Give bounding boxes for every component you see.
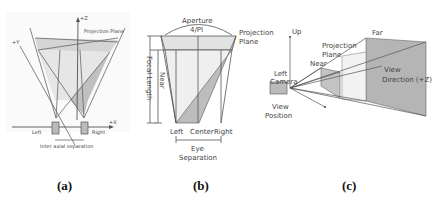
near-label: Near: [310, 60, 327, 68]
projection-plane: [342, 52, 366, 101]
eye-label: Eye: [191, 145, 204, 153]
view-direction-label-2: Direction (+Z): [382, 76, 432, 84]
stereo-diagram-canvas: +Z +Y +X Projection Plane Left Right Int…: [0, 0, 447, 201]
plane-label: Plane: [239, 38, 258, 46]
view-label: View: [272, 103, 289, 111]
left-camera-icon: [52, 122, 59, 134]
caption-b: (b): [193, 178, 209, 194]
panel-b: Aperture 4/PI Projection Plane Near Foca…: [145, 17, 274, 162]
view-direction-label-1: View: [384, 66, 401, 74]
projection-label: Projection: [322, 42, 357, 50]
projection-plane-label: Projection Plane: [84, 28, 124, 35]
aperture-label: Aperture: [182, 17, 213, 25]
right-camera-icon: [81, 122, 88, 134]
z-axis-label: +Z: [80, 15, 88, 21]
aperture-value: 4/PI: [190, 26, 203, 34]
camera-label: Camera: [270, 78, 297, 86]
caption-c: (c): [342, 178, 356, 194]
center-label: Center: [190, 128, 214, 136]
inter-axial-separation-label: Inter axial separation: [40, 143, 93, 150]
left-label: Left: [274, 70, 287, 78]
focal-length-label: Focal Length: [145, 56, 153, 101]
up-label: Up: [292, 28, 302, 36]
left-label: Left: [32, 129, 41, 135]
caption-a: (a): [57, 178, 72, 194]
separation-label: Separation: [179, 154, 217, 162]
far-label: Far: [372, 29, 383, 37]
plane-label: Plane: [322, 51, 341, 59]
near-label: Near: [158, 72, 166, 89]
x-axis-label: +X: [109, 119, 117, 125]
projection-label: Projection: [239, 29, 274, 37]
y-axis-label: +Y: [12, 39, 20, 45]
position-label: Position: [265, 112, 292, 120]
right-label: Right: [214, 128, 233, 136]
left-label: Left: [170, 128, 183, 136]
right-label: Right: [92, 129, 105, 136]
panel-a: +Z +Y +X Projection Plane Left Right Int…: [6, 12, 130, 150]
panel-c: Up Far Projection Plane Near Left Camera…: [265, 28, 432, 120]
